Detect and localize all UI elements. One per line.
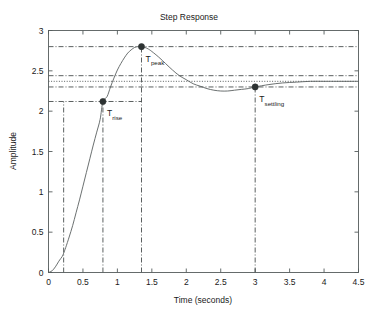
y-tick-label: 2 [39,106,44,116]
x-tick-label: 0.5 [77,277,89,287]
x-tick-label: 2.5 [215,277,227,287]
y-tick-label: 1 [39,187,44,197]
x-tick-label: 1.5 [146,277,158,287]
x-tick-label: 2 [184,277,189,287]
x-axis-label: Time (seconds) [174,295,232,305]
x-tick-label: 4 [322,277,327,287]
x-tick-label: 3.5 [284,277,296,287]
y-tick-label: 1.5 [32,147,44,157]
annotation-subscript: rise [112,114,123,121]
y-tick-label: 0.5 [32,227,44,237]
figure-background [0,0,379,314]
x-tick-label: 1 [115,277,120,287]
chart-title: Step Response [160,12,218,22]
y-tick-label: 0 [39,268,44,278]
x-tick-label: 4.5 [353,277,365,287]
y-axis-label: Amplitude [8,132,18,170]
x-tick-label: 3 [253,277,258,287]
y-tick-label: 3 [39,26,44,36]
annotation-subscript: peak [151,59,165,66]
data-point-marker [138,44,144,50]
data-point-marker [252,84,258,90]
annotation-subscript: settling [265,100,285,107]
data-point-marker [100,98,106,104]
x-tick-label: 0 [46,277,51,287]
step-response-figure: Step Response 00.511.522.53 00.511.522.5… [0,0,379,314]
y-tick-label: 2.5 [32,66,44,76]
plot-canvas: Step Response 00.511.522.53 00.511.522.5… [0,0,379,314]
